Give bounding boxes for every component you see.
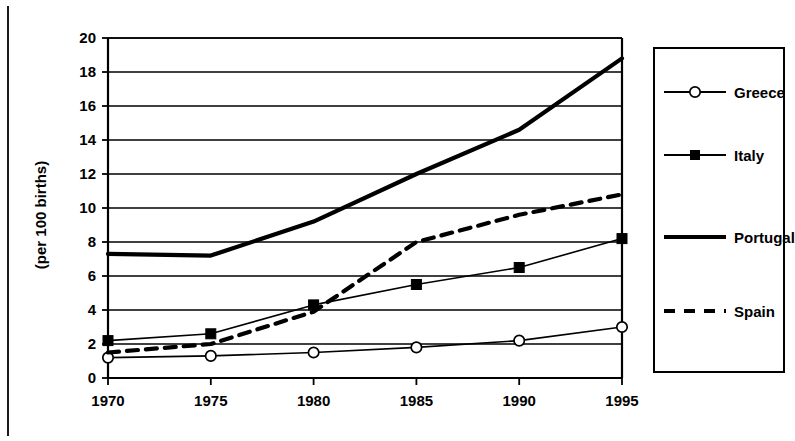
data-point-marker (617, 234, 627, 244)
y-tick-label: 6 (88, 267, 96, 284)
x-tick-label: 1985 (400, 392, 433, 409)
y-tick-label: 10 (79, 199, 96, 216)
data-point-marker (514, 335, 524, 345)
y-axis-ticks: 02468101214161820 (79, 29, 108, 386)
y-tick-label: 16 (79, 97, 96, 114)
legend-marker-filled-square (690, 150, 700, 160)
data-point-marker (308, 347, 318, 357)
y-tick-label: 0 (88, 369, 96, 386)
legend-label: Spain (734, 303, 775, 320)
series-spain (108, 194, 622, 352)
legend-item-italy[interactable]: Italy (664, 147, 765, 164)
chart-page: 02468101214161820 1970197519801985199019… (0, 0, 795, 441)
legend-box: GreeceItalyPortugalSpain (654, 48, 795, 372)
series-greece (103, 322, 627, 363)
y-tick-label: 4 (88, 301, 97, 318)
legend-label: Greece (734, 84, 785, 101)
line-chart: 02468101214161820 1970197519801985199019… (0, 0, 795, 441)
x-tick-label: 1990 (503, 392, 536, 409)
data-point-marker (617, 322, 627, 332)
x-axis-ticks: 197019751980198519901995 (91, 378, 638, 409)
y-tick-label: 18 (79, 63, 96, 80)
data-point-marker (206, 351, 216, 361)
series-portugal (108, 58, 622, 255)
y-tick-label: 8 (88, 233, 96, 250)
x-tick-label: 1975 (194, 392, 227, 409)
legend-item-portugal[interactable]: Portugal (664, 229, 795, 246)
x-tick-label: 1995 (605, 392, 638, 409)
legend-label: Italy (734, 147, 765, 164)
legend-label: Portugal (734, 229, 795, 246)
y-tick-label: 20 (79, 29, 96, 46)
series-line-portugal (108, 58, 622, 255)
legend-item-greece[interactable]: Greece (664, 84, 785, 101)
data-point-marker (206, 329, 216, 339)
data-point-marker (411, 342, 421, 352)
series-line-greece (108, 327, 622, 358)
legend-marker-open-circle (690, 87, 700, 97)
data-point-marker (514, 263, 524, 273)
y-tick-label: 14 (79, 131, 96, 148)
gridlines (108, 38, 622, 344)
series-line-spain (108, 194, 622, 352)
x-tick-label: 1970 (91, 392, 124, 409)
y-axis-title-text: (per 100 births) (32, 161, 49, 269)
data-series-group (103, 58, 627, 362)
y-tick-label: 2 (88, 335, 96, 352)
y-axis-title: (per 100 births) (32, 161, 49, 269)
legend-item-spain[interactable]: Spain (664, 303, 775, 320)
data-point-marker (411, 280, 421, 290)
x-tick-label: 1980 (297, 392, 330, 409)
series-italy (103, 234, 627, 346)
y-tick-label: 12 (79, 165, 96, 182)
data-point-marker (103, 336, 113, 346)
